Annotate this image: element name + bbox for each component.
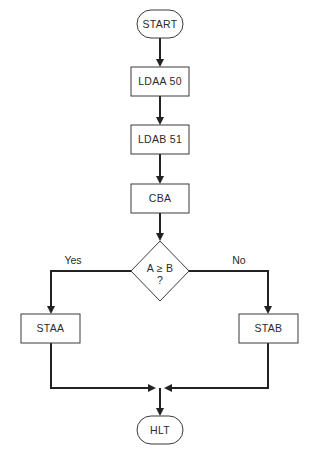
edge-label-no: No: [232, 254, 246, 266]
edge-decision-stab: [188, 271, 268, 308]
arrow-down-icon: [156, 408, 164, 416]
node-decision-label: A ≥ B: [147, 262, 174, 274]
node-decision: A ≥ B ?: [131, 241, 189, 301]
arrow-down-icon: [264, 306, 272, 314]
arrow-down-icon: [47, 306, 55, 314]
node-staa: STAA: [21, 314, 80, 343]
node-cba: CBA: [131, 184, 189, 213]
arrow-down-icon: [156, 176, 164, 184]
node-staa-label: STAA: [37, 322, 65, 334]
node-decision-question: ?: [157, 274, 163, 286]
arrow-down-icon: [156, 117, 164, 125]
node-hlt-label: HLT: [150, 424, 170, 436]
node-ldaa-label: LDAA 50: [138, 75, 182, 87]
node-start: START: [137, 10, 183, 38]
flowchart-canvas: START LDAA 50 LDAB 51 CBA A ≥ B ? Yes No…: [0, 0, 317, 458]
node-hlt: HLT: [137, 416, 183, 444]
arrow-right-icon: [148, 384, 156, 392]
node-cba-label: CBA: [149, 192, 172, 204]
node-ldab: LDAB 51: [131, 125, 189, 154]
arrow-left-icon: [164, 384, 172, 392]
node-stab-label: STAB: [255, 322, 283, 334]
arrow-down-icon: [156, 59, 164, 67]
edge-stab-merge: [170, 343, 268, 388]
node-stab: STAB: [239, 314, 298, 343]
node-ldaa: LDAA 50: [131, 67, 189, 96]
node-ldab-label: LDAB 51: [138, 133, 182, 145]
edge-staa-merge: [51, 343, 150, 388]
node-start-label: START: [143, 18, 178, 30]
edge-label-yes: Yes: [64, 254, 81, 266]
arrow-down-icon: [156, 233, 164, 241]
edge-decision-staa: [51, 271, 131, 308]
